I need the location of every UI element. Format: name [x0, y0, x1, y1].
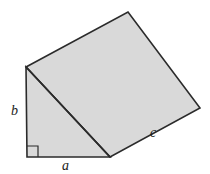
label-leg-b: b — [11, 104, 18, 118]
label-leg-a: a — [62, 159, 69, 173]
figure-canvas — [0, 0, 210, 174]
geometry-figure: b a c — [0, 0, 210, 174]
label-hypotenuse-c: c — [150, 126, 156, 140]
